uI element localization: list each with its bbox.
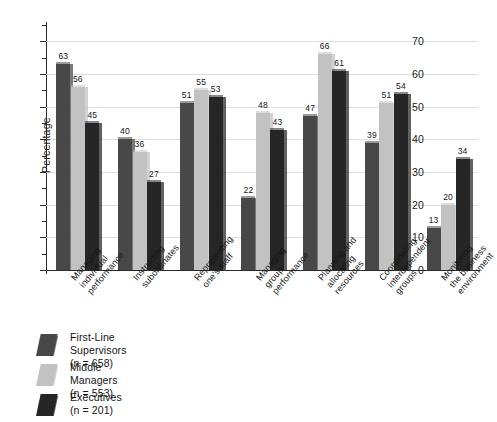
bar-value-label: 54 <box>396 81 406 91</box>
bar-value-label: 20 <box>443 192 453 202</box>
bar-group: 395154 <box>355 25 417 270</box>
bar-value-label: 63 <box>58 51 68 61</box>
bar-value-label: 45 <box>87 110 97 120</box>
bar[interactable]: 48 <box>256 113 270 270</box>
bar[interactable]: 40 <box>118 139 132 270</box>
bar-group: 132034 <box>416 25 478 270</box>
bar[interactable]: 47 <box>303 116 317 270</box>
bar[interactable]: 51 <box>180 103 194 270</box>
bar-value-label: 53 <box>211 84 221 94</box>
bar-chart: 010203040506070 Percentage 6356454036275… <box>0 0 497 422</box>
bar-value-label: 51 <box>381 90 391 100</box>
bar[interactable]: 22 <box>241 198 255 270</box>
legend-series-name: Middle Managers <box>70 361 117 387</box>
bar-group: 403627 <box>108 25 170 270</box>
bar-value-label: 27 <box>149 169 159 179</box>
bar-value-label: 36 <box>135 139 145 149</box>
bar-group: 515553 <box>169 25 231 270</box>
bar[interactable]: 61 <box>332 71 346 270</box>
legend-swatch <box>36 364 58 386</box>
legend-label: Executives(n = 201) <box>70 391 122 417</box>
bar-value-label: 40 <box>120 126 130 136</box>
bar-value-label: 48 <box>258 100 268 110</box>
legend-series-name: First-Line Supervisors <box>70 331 127 357</box>
bar[interactable]: 56 <box>71 87 85 270</box>
bar-group: 635645 <box>46 25 108 270</box>
legend-series-name: Executives <box>70 391 122 404</box>
bar-value-label: 22 <box>244 185 254 195</box>
bar-value-label: 47 <box>305 103 315 113</box>
bar[interactable]: 66 <box>318 54 332 270</box>
bar-value-label: 66 <box>320 41 330 51</box>
bar[interactable]: 63 <box>56 64 70 270</box>
bar-value-label: 51 <box>182 90 192 100</box>
legend-series-n: (n = 201) <box>70 404 122 417</box>
bar[interactable]: 51 <box>379 103 393 270</box>
bar-group: 224843 <box>231 25 293 270</box>
bar-value-label: 43 <box>273 117 283 127</box>
y-tick <box>40 270 46 271</box>
bar-value-label: 61 <box>334 58 344 68</box>
bar-value-label: 39 <box>367 130 377 140</box>
bar-value-label: 13 <box>429 215 439 225</box>
bar[interactable]: 36 <box>133 152 147 270</box>
bar[interactable]: 55 <box>194 90 208 270</box>
bar-value-label: 55 <box>196 77 206 87</box>
legend-swatch <box>36 334 58 356</box>
bar-value-label: 56 <box>73 74 83 84</box>
bar-value-label: 34 <box>458 146 468 156</box>
bar-group: 476661 <box>293 25 355 270</box>
legend-swatch <box>36 394 58 416</box>
